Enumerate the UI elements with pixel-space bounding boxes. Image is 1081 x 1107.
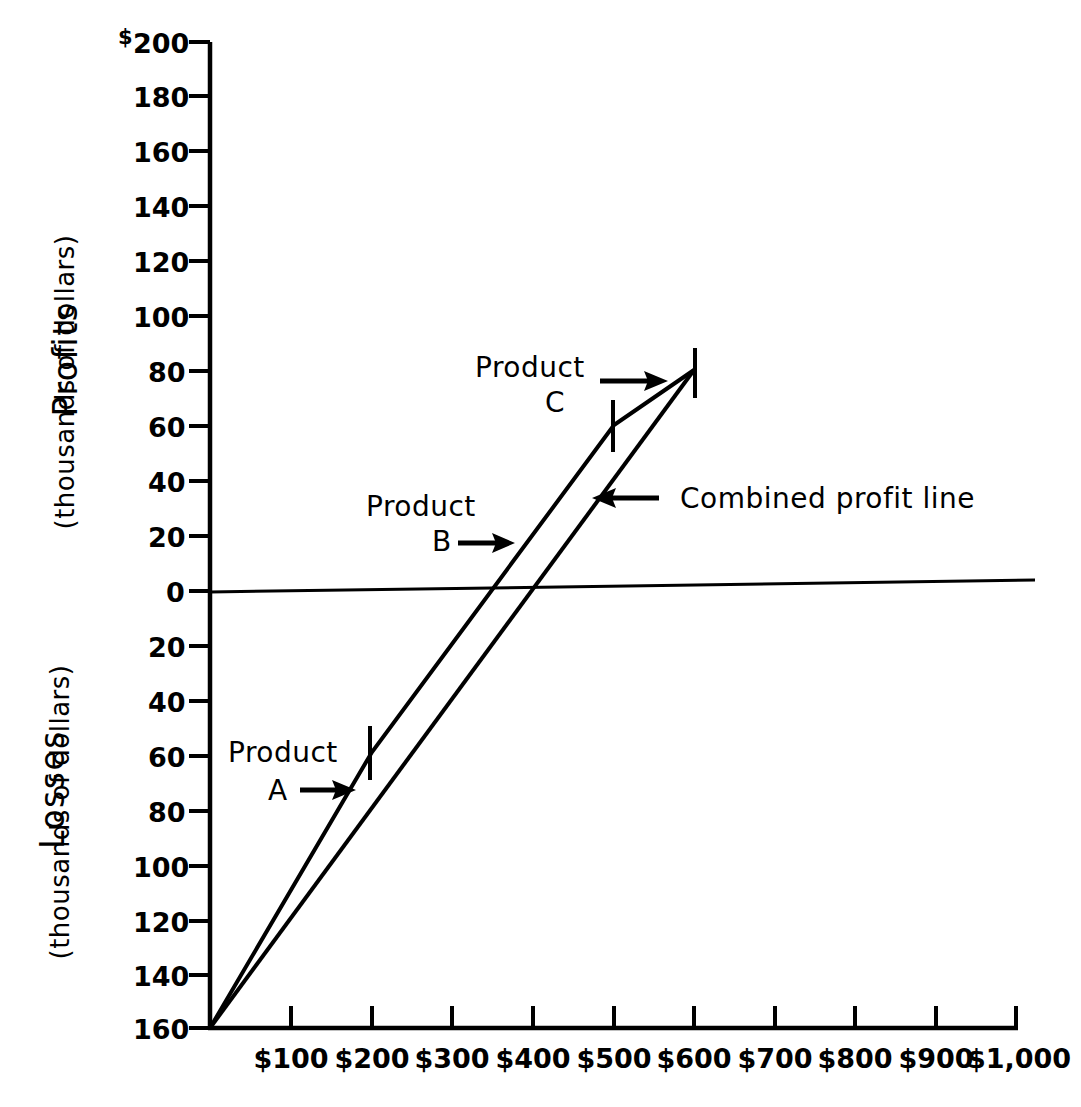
x-tick-label: $700 [737, 1043, 812, 1074]
x-tick-label: $100 [253, 1043, 328, 1074]
annotation-product-a-line2: A [268, 774, 288, 807]
y-tick-label: 140 [133, 192, 189, 223]
x-tick-label: $900 [898, 1043, 973, 1074]
y-tick-label: 0 [166, 577, 185, 608]
annotation-product-b-line2: B [432, 525, 452, 558]
y-axis-currency-symbol: $ [118, 25, 133, 49]
annotation-product-c-line1: Product [475, 351, 585, 384]
combined-profit-line [210, 370, 694, 1028]
x-tick-label: $500 [576, 1043, 651, 1074]
y-tick-label: 40 [148, 467, 186, 498]
x-tick-label: $1,000 [967, 1043, 1071, 1074]
y-tick-label: 60 [148, 412, 186, 443]
y-tick-label: 180 [133, 82, 189, 113]
y-tick-label: 100 [133, 852, 189, 883]
y-tick-label: 200 [133, 28, 189, 59]
y-tick-label: 120 [133, 247, 189, 278]
annotation-combined-profit-line: Combined profit line [592, 482, 975, 515]
x-tick-label: $800 [817, 1043, 892, 1074]
y-tick-label: 140 [133, 961, 189, 992]
segment-marker-ticks [370, 348, 695, 780]
x-tick-label: $200 [334, 1043, 409, 1074]
x-axis-tick-labels: $100 $200 $300 $400 $500 $600 $700 $800 … [253, 1043, 1071, 1074]
y-axis-ticks [189, 42, 210, 1028]
y-tick-label: 40 [148, 687, 186, 718]
y-tick-label: 20 [148, 522, 186, 553]
chart-container: Profits (thousands of dollars) Losses (t… [0, 0, 1081, 1107]
y-tick-label: 160 [133, 1014, 189, 1045]
annotation-product-b-line1: Product [366, 490, 476, 523]
y-tick-label: 120 [133, 907, 189, 938]
annotation-product-a: Product A [228, 736, 356, 807]
annotation-combined-label: Combined profit line [680, 482, 975, 515]
annotation-combined-arrow [592, 488, 659, 508]
y-axis-tick-labels-lower: 20 40 60 80 100 120 140 160 [133, 632, 189, 1045]
y-tick-label: 20 [148, 632, 186, 663]
x-axis-ticks [291, 1006, 1016, 1028]
y-tick-label: 160 [133, 137, 189, 168]
y-tick-label: 100 [133, 302, 189, 333]
y-tick-label: 60 [148, 742, 186, 773]
annotation-product-c-arrow [600, 371, 668, 391]
y-axis-tick-labels-upper: $ 200 180 160 140 120 100 80 60 40 20 0 [118, 25, 189, 608]
zero-reference-line [210, 580, 1035, 592]
x-tick-label: $400 [495, 1043, 570, 1074]
annotation-product-a-line1: Product [228, 736, 338, 769]
y-tick-label: 80 [148, 357, 186, 388]
annotation-product-c-line2: C [545, 386, 565, 419]
annotation-product-b-arrow [458, 533, 515, 553]
y-tick-label: 80 [148, 797, 186, 828]
x-tick-label: $300 [414, 1043, 489, 1074]
plot-area: $ 200 180 160 140 120 100 80 60 40 20 0 … [0, 0, 1081, 1107]
annotation-product-b: Product B [366, 490, 515, 558]
x-tick-label: $600 [656, 1043, 731, 1074]
